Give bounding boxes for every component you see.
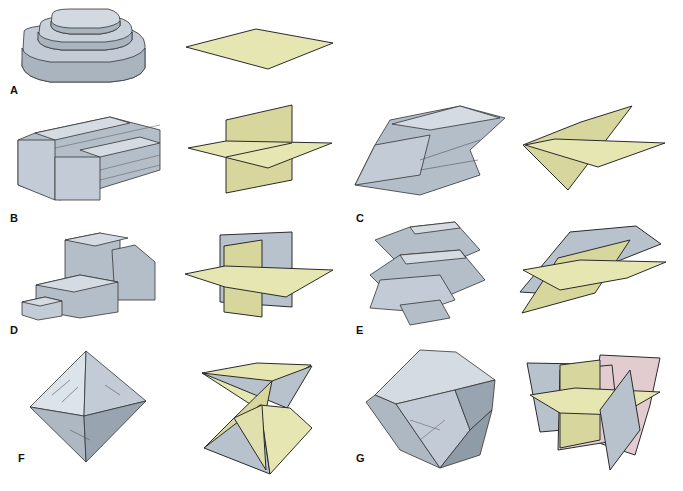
plane-a-single <box>186 29 333 69</box>
plane-b-two-orthogonal <box>188 105 332 193</box>
mineral-f-octahedron <box>30 351 146 462</box>
mineral-a-layered-sheets <box>22 9 145 82</box>
plane-e-three-oblique <box>520 226 666 313</box>
panel-label-c: C <box>356 212 364 224</box>
mineral-e-rhombohedral-blocks <box>370 222 485 325</box>
plane-d-three-orthogonal <box>185 232 333 317</box>
mineral-c-oblique-blocks <box>355 106 505 195</box>
panel-label-f: F <box>18 452 25 464</box>
panel-label-e: E <box>356 324 363 336</box>
panel-label-g: G <box>356 452 365 464</box>
plane-c-two-oblique <box>523 106 665 190</box>
panel-label-a: A <box>10 84 18 96</box>
mineral-b-prismatic-blocks <box>18 117 160 200</box>
mineral-g-dodecahedron <box>366 350 495 468</box>
panel-label-d: D <box>10 324 18 336</box>
panel-label-b: B <box>10 212 18 224</box>
mineral-d-cubic-blocks <box>22 233 155 320</box>
plane-g-six-directions <box>527 355 660 470</box>
plane-f-four-directions <box>202 363 312 474</box>
